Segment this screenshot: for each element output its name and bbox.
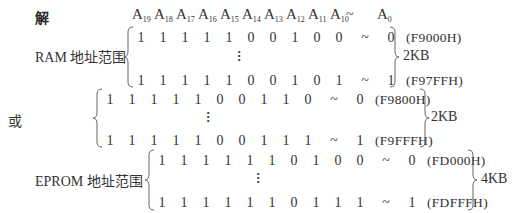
bit: 0: [283, 153, 305, 169]
bit: 1: [218, 73, 240, 89]
range-tilde: ~: [350, 73, 380, 89]
bit: 1: [165, 92, 187, 108]
range-tilde: ~: [350, 30, 380, 46]
vdots: ···: [206, 111, 210, 123]
bit: 1: [173, 195, 195, 211]
alt-size: 2KB: [431, 109, 457, 125]
bit: 1: [152, 73, 174, 89]
bit: 1: [284, 73, 306, 89]
bit: 1: [275, 92, 297, 108]
range-tilde: ~: [371, 153, 401, 169]
vdots: ···: [256, 172, 260, 184]
bit: 1: [151, 195, 173, 211]
bit: 1: [143, 92, 165, 108]
bit: 1: [261, 195, 283, 211]
bit: 0: [327, 153, 349, 169]
eprom-range-label: EPROM 地址范围: [35, 170, 143, 190]
bit: 0: [283, 195, 305, 211]
bit: 0: [306, 73, 328, 89]
bit: 1: [152, 30, 174, 46]
right-brace: [467, 149, 481, 211]
bit: 1: [187, 133, 209, 149]
bit: 1: [275, 133, 297, 149]
bit: 1: [239, 195, 261, 211]
range-tilde: ~: [319, 133, 349, 149]
address-line-a11: A11: [308, 6, 330, 24]
bit: 1: [130, 73, 152, 89]
address-line-a0: A0: [377, 6, 392, 24]
bit: 0: [349, 153, 371, 169]
bit-a0: 0: [401, 153, 423, 169]
hex-address: (F97FFH): [406, 73, 463, 88]
bit: 1: [328, 73, 350, 89]
eprom-start-row: 1111110100~0(FD000H): [151, 150, 486, 169]
bit: 1: [121, 133, 143, 149]
hex-address: (F9000H): [406, 30, 462, 45]
ram-size: 2KB: [403, 48, 429, 64]
bit: 1: [195, 195, 217, 211]
bit: 1: [121, 92, 143, 108]
bit: 1: [253, 92, 275, 108]
bit: 1: [195, 153, 217, 169]
bit: 1: [174, 30, 196, 46]
ram-start-row: 1111100100~0(F9000H): [130, 27, 462, 46]
vdots: ···: [237, 50, 241, 62]
bit-a0: 0: [349, 92, 371, 108]
alt-end-row: 1111100111~1(F9FFFH): [99, 130, 433, 149]
bit-a0: 1: [349, 133, 371, 149]
bit: 1: [143, 133, 165, 149]
alternative-label: 或: [8, 110, 22, 130]
bit: 1: [305, 195, 327, 211]
address-line-a19: A19: [132, 6, 154, 24]
bit: 1: [217, 195, 239, 211]
ram-range-label: RAM 地址范围: [35, 46, 126, 66]
bit: 1: [305, 153, 327, 169]
bit: 1: [327, 195, 349, 211]
bit: 0: [262, 30, 284, 46]
address-line-a16: A16: [198, 6, 220, 24]
bit: 1: [349, 195, 371, 211]
bit: 1: [253, 133, 275, 149]
bit: 1: [174, 73, 196, 89]
ram-end-row: 1111100101~1(F97FFH): [130, 70, 463, 89]
bit: 1: [196, 30, 218, 46]
range-tilde: ~: [371, 195, 401, 211]
bit: 1: [261, 153, 283, 169]
bit: 0: [328, 30, 350, 46]
address-line-a12: A12: [286, 6, 308, 24]
header-tilde: ~: [346, 7, 354, 23]
bit: 0: [209, 92, 231, 108]
range-tilde: ~: [319, 92, 349, 108]
bit: 1: [99, 92, 121, 108]
bit-a0: 1: [401, 195, 423, 211]
bit: 1: [130, 30, 152, 46]
bit: 1: [284, 30, 306, 46]
bit: 0: [231, 92, 253, 108]
address-line-a17: A17: [176, 6, 198, 24]
bit: 1: [165, 133, 187, 149]
eprom-size: 4KB: [481, 171, 507, 187]
bit: 0: [209, 133, 231, 149]
right-brace: [389, 26, 403, 88]
bit: 0: [306, 30, 328, 46]
solution-label: 解: [35, 7, 49, 27]
address-line-labels: A19A18A17A16A15A14A13A12A11A10: [132, 6, 352, 24]
bit: 1: [151, 153, 173, 169]
bit: 0: [297, 92, 319, 108]
bit: 0: [231, 133, 253, 149]
bit: 1: [217, 153, 239, 169]
bit: 1: [173, 153, 195, 169]
address-line-a14: A14: [242, 6, 264, 24]
bit: 0: [240, 73, 262, 89]
eprom-end-row: 1111110111~1(FDFFFH): [151, 192, 488, 211]
address-line-a18: A18: [154, 6, 176, 24]
bit: 1: [196, 73, 218, 89]
bit: 1: [99, 133, 121, 149]
address-line-a15: A15: [220, 6, 242, 24]
bit: 1: [297, 133, 319, 149]
alt-start-row: 1111100110~0(F9800H): [99, 89, 431, 108]
bit: 0: [262, 73, 284, 89]
bit: 0: [240, 30, 262, 46]
address-line-a13: A13: [264, 6, 286, 24]
